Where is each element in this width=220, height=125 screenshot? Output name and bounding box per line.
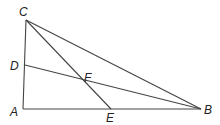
- segment-CE: [26, 20, 111, 109]
- label-B: B: [204, 103, 212, 117]
- label-D: D: [10, 59, 19, 73]
- label-F: F: [84, 71, 92, 85]
- label-C: C: [19, 5, 28, 19]
- segment-CB: [26, 20, 201, 109]
- geometry-diagram: C D A E B F: [0, 0, 220, 125]
- segment-AC: [23, 20, 26, 109]
- segment-DB: [25, 65, 201, 109]
- label-A: A: [9, 105, 18, 119]
- label-E: E: [106, 111, 115, 125]
